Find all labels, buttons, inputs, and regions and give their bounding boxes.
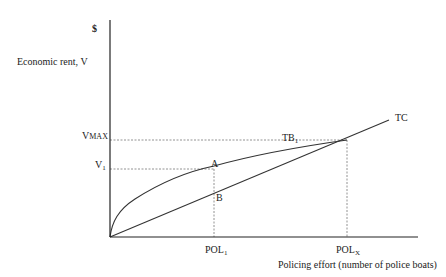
vmax-tick-label: VMAX (82, 131, 108, 141)
y-unit-label: $ (92, 24, 97, 34)
pol1-main: POL (205, 244, 224, 255)
chart-svg (0, 0, 446, 277)
polx-tick-label: POLX (336, 245, 360, 257)
tb1-curve-label: TB1 (282, 133, 298, 145)
polx-sub: X (355, 249, 360, 257)
x-axis-title: Policing effort (number of police boats) (278, 260, 437, 270)
polx-main: POL (336, 244, 355, 255)
pol1-sub: 1 (224, 249, 228, 257)
point-b-label: B (216, 193, 223, 203)
tb1-sub: 1 (295, 137, 299, 145)
y-axis-title: Economic rent, V (17, 57, 88, 67)
v1-sub: 1 (102, 164, 106, 172)
vmax-sub: MAX (89, 132, 108, 141)
point-a-label: A (211, 159, 218, 169)
v1-tick-label: V1 (95, 160, 106, 172)
pol1-tick-label: POL1 (205, 245, 227, 257)
tb1-main: TB (282, 132, 295, 143)
chart-container: $ Economic rent, V VMAX V1 TB1 TC A B PO… (0, 0, 446, 277)
tc-line-label: TC (395, 113, 408, 123)
